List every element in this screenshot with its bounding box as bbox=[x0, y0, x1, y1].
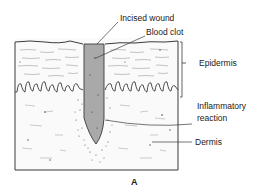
skin-wound-diagram bbox=[0, 0, 267, 194]
panel-label: A bbox=[131, 177, 138, 187]
label-inflammatory-line1: Inflammatory bbox=[197, 101, 246, 111]
label-blood-clot: Blood clot bbox=[146, 27, 183, 37]
label-dermis: Dermis bbox=[195, 137, 222, 147]
label-incised-wound: Incised wound bbox=[120, 13, 174, 23]
label-inflammatory-line2: reaction bbox=[197, 113, 227, 123]
label-epidermis: Epidermis bbox=[199, 58, 237, 68]
epidermis-bracket bbox=[180, 42, 186, 97]
